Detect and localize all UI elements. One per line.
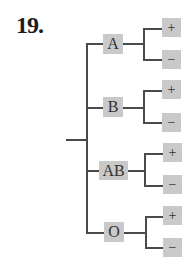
o-rh-negative: −	[163, 238, 182, 257]
blood-type-a: A	[103, 34, 123, 54]
ab-rh-negative: −	[163, 175, 182, 194]
blood-type-b: B	[103, 97, 123, 117]
ab-plus-line	[144, 153, 163, 155]
b-connector	[123, 107, 143, 109]
main-stem	[86, 43, 88, 233]
a-fork	[143, 28, 145, 60]
b-rh-negative: −	[162, 113, 181, 132]
blood-type-ab: AB	[99, 161, 128, 180]
ab-fork	[144, 153, 146, 186]
blood-type-o: O	[104, 222, 124, 242]
branch-line-a	[86, 43, 103, 45]
o-connector	[124, 232, 145, 234]
o-rh-positive: +	[163, 206, 182, 225]
ab-minus-line	[144, 185, 163, 187]
a-plus-line	[143, 28, 163, 30]
branch-line-b	[86, 107, 103, 109]
o-minus-line	[145, 247, 163, 249]
ab-connector	[128, 170, 144, 172]
b-fork	[143, 90, 145, 123]
a-minus-line	[143, 59, 163, 61]
a-rh-negative: −	[162, 50, 181, 69]
a-connector	[123, 43, 143, 45]
branch-line-ab	[86, 170, 100, 172]
o-fork	[145, 216, 147, 248]
root-line	[66, 139, 87, 141]
ab-rh-positive: +	[163, 143, 182, 162]
b-minus-line	[143, 122, 163, 124]
a-rh-positive: +	[162, 18, 181, 37]
problem-number: 19.	[16, 12, 43, 39]
b-rh-positive: +	[162, 80, 181, 99]
o-plus-line	[145, 216, 163, 218]
b-plus-line	[143, 90, 163, 92]
branch-line-o	[86, 232, 104, 234]
